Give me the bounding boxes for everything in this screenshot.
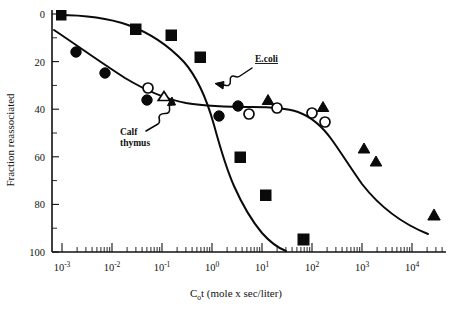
chart-page: 0 20 40 60 80 100 xyxy=(0,0,449,310)
series-ecoli xyxy=(57,11,310,252)
ecoli-point-7 xyxy=(298,234,309,245)
y-tick-label-20: 20 xyxy=(35,57,46,68)
y-tick-label-60: 60 xyxy=(35,152,46,163)
calf-point-triangle-5 xyxy=(428,209,440,220)
x-tick-exp-2: -2 xyxy=(114,260,120,269)
calf-point-open-2 xyxy=(244,109,254,119)
ecoli-point-3 xyxy=(166,30,177,41)
y-tick-label-0: 0 xyxy=(40,9,45,20)
cot-curve-chart: 0 20 40 60 80 100 xyxy=(0,0,449,310)
ecoli-annotation-arrow xyxy=(221,68,252,86)
y-axis-title: Fraction reassociated xyxy=(4,93,16,187)
x-tick-exp-7: 3 xyxy=(365,260,369,269)
calf-point-open-3 xyxy=(272,103,282,113)
x-tick-exp-1: -3 xyxy=(64,260,70,269)
series-calf-thymus xyxy=(54,30,440,234)
x-tick-exp-5: 1 xyxy=(265,260,269,269)
calf-point-circle-2 xyxy=(100,68,110,78)
x-axis-title-base: C xyxy=(190,287,197,299)
y-tick-label-80: 80 xyxy=(35,199,46,210)
x-tick-exp-3: -1 xyxy=(164,260,170,269)
x-tick-label-2: 10-2 xyxy=(104,260,121,273)
x-tick-exp-8: 4 xyxy=(415,260,419,269)
calf-point-triangle-3 xyxy=(358,143,370,153)
calf-point-circle-4 xyxy=(214,111,224,121)
calf-point-triangle-1 xyxy=(262,95,274,105)
x-axis-title: Cot (mole x sec/liter) xyxy=(190,287,282,302)
calf-point-open-5 xyxy=(320,117,330,127)
ecoli-point-6 xyxy=(261,190,272,201)
x-tick-exp-6: 2 xyxy=(315,260,319,269)
x-tick-label-1: 10-3 xyxy=(54,260,71,273)
ecoli-annotation-arrowhead xyxy=(215,82,224,90)
x-tick-label-5: 101 xyxy=(255,260,270,273)
ecoli-point-5 xyxy=(235,152,246,163)
x-tick-labels: 10-3 10-2 10-1 100 101 102 103 104 xyxy=(54,260,420,273)
x-tick-label-7: 103 xyxy=(355,260,370,273)
ecoli-point-2 xyxy=(131,24,142,35)
calf-point-circle-5 xyxy=(233,101,243,111)
calf-thymus-annotation-line1: Calf xyxy=(120,127,138,137)
ecoli-annotation-label: E.coli xyxy=(255,54,278,64)
ecoli-curve-line xyxy=(58,15,286,251)
calf-point-triangle-4 xyxy=(370,156,382,166)
calf-point-open-4 xyxy=(307,108,317,118)
calf-point-triangle-2 xyxy=(317,102,329,112)
y-tick-labels: 0 20 40 60 80 100 xyxy=(29,9,45,258)
x-tick-label-3: 10-1 xyxy=(154,260,171,273)
x-axis-title-rest: t (mole x sec/liter) xyxy=(201,287,282,300)
calf-point-circle-1 xyxy=(71,47,81,57)
y-tick-marks xyxy=(52,14,59,252)
x-tick-label-4: 100 xyxy=(205,260,220,273)
ecoli-point-1 xyxy=(57,11,67,21)
calf-thymus-annotation-line2: thymus xyxy=(120,138,150,148)
y-tick-label-40: 40 xyxy=(35,104,46,115)
calf-thymus-annotation-arrow xyxy=(146,104,170,131)
x-tick-label-8: 104 xyxy=(405,260,420,273)
calf-thymus-curve-line xyxy=(54,30,428,234)
calf-point-open-1 xyxy=(143,83,153,93)
x-tick-exp-4: 0 xyxy=(215,260,219,269)
ecoli-point-4 xyxy=(195,52,206,63)
y-tick-label-100: 100 xyxy=(29,247,45,258)
x-tick-label-6: 102 xyxy=(305,260,320,273)
calf-point-circle-3 xyxy=(142,95,152,105)
x-tick-marks xyxy=(62,243,442,252)
annotation-ecoli: E.coli xyxy=(215,54,278,89)
